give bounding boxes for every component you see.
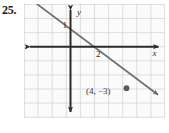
graph-svg: y x 1 2 (4, −3) (24, 4, 165, 118)
x-unit-tick-label: 2 (96, 49, 101, 59)
y-unit-tick-label: 1 (63, 20, 68, 30)
figure-page: 25. (0, 0, 169, 133)
point-coordinate-label: (4, −3) (86, 86, 111, 96)
plotted-point-marker (124, 85, 130, 91)
coordinate-graph: y x 1 2 (4, −3) (24, 4, 165, 118)
problem-number-label: 25. (2, 3, 16, 18)
x-axis-label: x (152, 48, 157, 58)
y-axis-label: y (76, 7, 81, 17)
